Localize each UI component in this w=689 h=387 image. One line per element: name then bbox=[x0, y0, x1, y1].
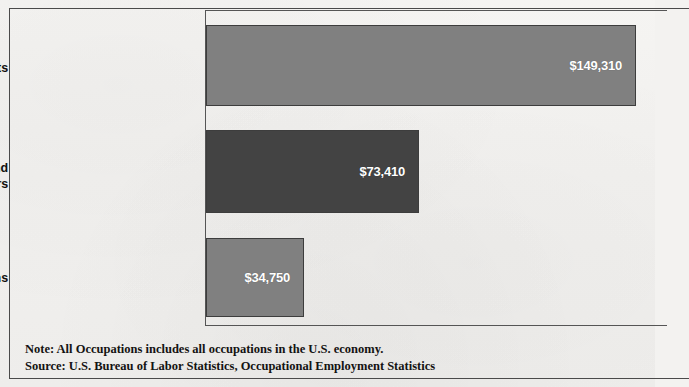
category-label-health-diagnosing-and-treating-practitioners: Health Diagnosing and Treating Practitio… bbox=[0, 161, 8, 192]
bar-total-all-occupations: $34,750 bbox=[206, 238, 304, 317]
bar-health-diagnosing-and-treating-practitioners: $73,410 bbox=[206, 130, 419, 213]
bar-row: Dentists $149,310 bbox=[206, 11, 667, 116]
category-label-dentists: Dentists bbox=[0, 61, 8, 77]
footnotes: Note: All Occupations includes all occup… bbox=[25, 341, 435, 375]
footnote-source: Source: U.S. Bureau of Labor Statistics,… bbox=[25, 358, 435, 375]
bar-value-dentists: $149,310 bbox=[569, 58, 622, 73]
category-label-total-all-occupations: Total, All Occupations bbox=[0, 271, 8, 287]
plot-area: Dentists $149,310 Health Diagnosing and … bbox=[205, 10, 667, 326]
bar-dentists: $149,310 bbox=[206, 25, 636, 106]
footnote-note: Note: All Occupations includes all occup… bbox=[25, 341, 435, 358]
bar-value-total-all-occupations: $34,750 bbox=[244, 270, 290, 285]
bar-value-health-diagnosing-and-treating-practitioners: $73,410 bbox=[359, 164, 405, 179]
bar-row: Total, All Occupations $34,750 bbox=[206, 224, 667, 327]
bar-row: Health Diagnosing and Treating Practitio… bbox=[206, 116, 667, 224]
